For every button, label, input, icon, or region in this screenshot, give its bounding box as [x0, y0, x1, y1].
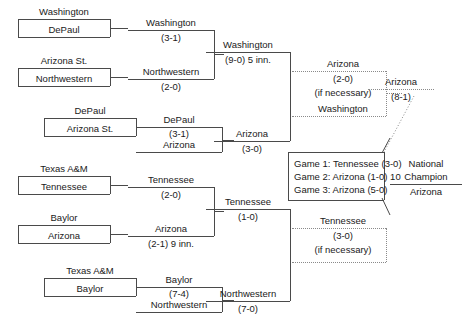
round1-team-bottom: DePaul [18, 24, 110, 35]
round3-winner: Washington [206, 39, 290, 50]
round3-rule [206, 209, 290, 210]
upper-bracket-spine [290, 52, 291, 141]
if-necessary-note: (if necessary) [300, 244, 386, 255]
round1-box-left [44, 118, 45, 136]
champion-team: Arizona [390, 186, 462, 197]
round1-box-bottom [44, 296, 136, 297]
round1-top-rule [18, 176, 110, 177]
round1-box-bottom [18, 86, 110, 87]
round2-box-bottom [136, 152, 222, 153]
round1-team-bottom: Arizona St. [44, 123, 136, 134]
round2-rule [128, 30, 214, 31]
series-game-1: Game 1: Tennessee (3-0) [294, 158, 390, 169]
round1-team-top: Baylor [18, 212, 110, 223]
round2-score: (2-0) [128, 189, 214, 200]
round2-score: (2-0) [128, 81, 214, 92]
if-necessary-box-bottom [292, 116, 386, 117]
round3-score: (1-0) [206, 211, 290, 222]
round3-score: (7-0) [206, 303, 290, 314]
round2-loser: Arizona [136, 139, 222, 150]
final-winner: Arizona [366, 76, 436, 87]
round3-winner: Arizona [214, 128, 290, 139]
round3-rule [206, 301, 290, 302]
round1-team-top: Texas A&M [44, 265, 136, 276]
round1-team-top: Arizona St. [18, 55, 110, 66]
round2-winner: Northwestern [128, 66, 214, 77]
round2-rule [128, 79, 214, 80]
round1-box-bottom [18, 194, 110, 195]
round3-score: (3-0) [214, 143, 290, 154]
champion-label-line2: Champion [390, 171, 462, 182]
round2-score: (2-1) 9 inn. [128, 238, 214, 249]
final-rule [368, 89, 434, 90]
series-game-2: Game 2: Arizona (1-0) 10 [294, 171, 390, 182]
diagonal-connector-series-top [378, 138, 394, 154]
round1-team-bottom: Tennessee [18, 181, 110, 192]
round1-box-bottom [18, 37, 110, 38]
round2-winner: Arizona [128, 223, 214, 234]
round1-box-bottom [44, 136, 136, 137]
round1-box-left [18, 176, 19, 194]
round1-team-top: Washington [18, 6, 110, 17]
lower-bracket-spine [290, 209, 291, 301]
round1-team-bottom: Northwestern [18, 73, 110, 84]
round2-winner: Tennessee [128, 174, 214, 185]
round1-box-left [18, 68, 19, 86]
round2-score: (3-1) [128, 32, 214, 43]
if-necessary-box-right [386, 228, 387, 262]
round2-score: (3-1) [136, 128, 222, 139]
round2-rule [128, 236, 214, 237]
series-box-top [288, 152, 384, 153]
round2-rule [128, 187, 214, 188]
round1-top-rule [44, 118, 136, 119]
if-necessary-winner: Tennessee [300, 215, 386, 226]
round2-winner: Baylor [136, 274, 222, 285]
connector-r1-r2 [110, 77, 128, 78]
if-necessary-loser: Washington [300, 103, 386, 114]
if-necessary-score: (3-0) [300, 230, 386, 241]
round2-winner: Washington [128, 17, 214, 28]
if-necessary-winner: Arizona [300, 58, 386, 69]
round1-team-top: DePaul [44, 105, 136, 116]
round3-score: (9-0) 5 inn. [206, 54, 290, 65]
round1-top-rule [18, 225, 110, 226]
round1-top-rule [18, 19, 110, 20]
round1-top-rule [18, 68, 110, 69]
series-box-left [288, 152, 289, 200]
round1-top-rule [44, 278, 136, 279]
if-necessary-rule [292, 71, 386, 72]
round3-rule [214, 141, 290, 142]
round2-winner: DePaul [136, 114, 222, 125]
champion-rule [390, 184, 462, 185]
connector-r1-r2 [110, 185, 128, 186]
round1-box-left [18, 19, 19, 37]
champion-label-line1: National [390, 158, 462, 169]
series-game-3: Game 3: Arizona (5-0) [294, 184, 390, 195]
round3-winner: Northwestern [206, 288, 290, 299]
connector-r1-r2 [110, 234, 128, 235]
connector-r1-r2 [110, 28, 128, 29]
round1-box-bottom [18, 243, 110, 244]
if-necessary-box-bottom [292, 262, 386, 263]
round1-box-left [18, 225, 19, 243]
round1-team-bottom: Baylor [44, 283, 136, 294]
if-necessary-rule [292, 228, 386, 229]
diagonal-connector-series-bottom [378, 198, 394, 216]
round1-box-left [44, 278, 45, 296]
series-box-bottom [288, 200, 384, 201]
round3-winner: Tennessee [206, 196, 290, 207]
round1-team-bottom: Arizona [18, 230, 110, 241]
round3-rule [206, 52, 290, 53]
round1-team-top: Texas A&M [18, 163, 110, 174]
tournament-bracket: Washington DePaul Washington (3-1) Arizo… [0, 0, 476, 330]
